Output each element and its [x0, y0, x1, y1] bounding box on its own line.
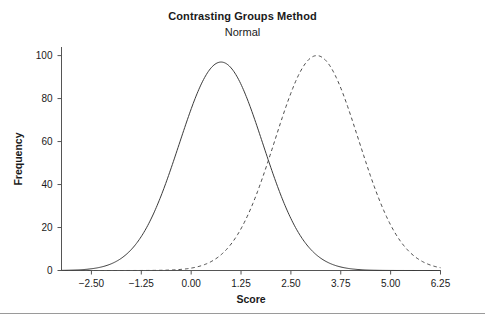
- y-axis-tick-label: 100: [36, 50, 53, 61]
- plot-area: 020406080100 −2.50−1.250.001.252.503.755…: [0, 0, 485, 322]
- x-axis-tick-labels: −2.50−1.250.001.252.503.755.006.25: [79, 278, 451, 289]
- x-axis-tick-label: −1.25: [129, 278, 155, 289]
- y-axis-title: Frequency: [12, 132, 24, 185]
- bottom-divider: [0, 313, 485, 314]
- x-axis-tick-label: 5.00: [381, 278, 401, 289]
- x-axis-tick-label: 1.25: [231, 278, 251, 289]
- x-axis-ticks: [91, 271, 440, 275]
- x-axis-tick-label: −2.50: [79, 278, 105, 289]
- y-axis-tick-label: 40: [41, 179, 53, 190]
- x-axis-tick-label: 6.25: [431, 278, 451, 289]
- series-line-group-2: [62, 56, 441, 271]
- series-line-group-1: [62, 62, 441, 270]
- y-axis-tick-label: 60: [41, 136, 53, 147]
- y-axis-ticks: [58, 56, 62, 271]
- y-axis-tick-label: 0: [47, 265, 53, 276]
- x-axis-tick-label: 0.00: [181, 278, 201, 289]
- y-axis-tick-label: 20: [41, 222, 53, 233]
- x-axis-title: Score: [236, 293, 265, 305]
- chart-figure: Contrasting Groups Method Normal 0204060…: [0, 0, 485, 322]
- x-axis-tick-label: 3.75: [331, 278, 351, 289]
- y-axis-tick-labels: 020406080100: [36, 50, 53, 276]
- x-axis-tick-label: 2.50: [281, 278, 301, 289]
- y-axis-tick-label: 80: [41, 93, 53, 104]
